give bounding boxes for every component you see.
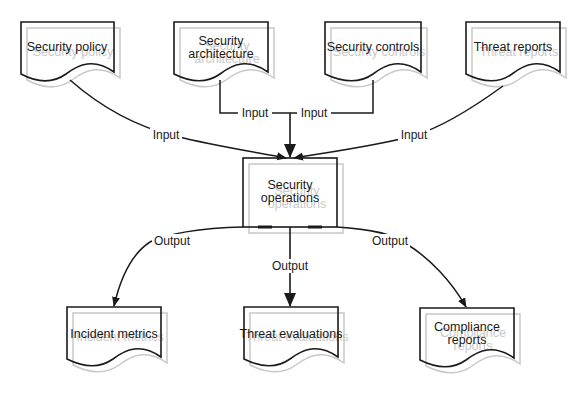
node-label: Security [267, 178, 313, 192]
node-label: Compliance [434, 320, 500, 334]
node-label: Security controls [327, 40, 419, 54]
edge-label: Output [372, 234, 409, 248]
node-threat-reports[interactable]: Threat reports Threat reports [466, 22, 566, 87]
node-label: Threat reports [474, 40, 553, 54]
edge-threat-reports-input[interactable]: Input [294, 86, 503, 158]
node-label: operations [261, 191, 319, 205]
node-incident-metrics[interactable]: Incident metrics Incident metrics [67, 307, 167, 372]
node-label: Threat evaluations [240, 327, 343, 341]
edge-label: Output [154, 234, 191, 248]
edge-label: Input [401, 128, 428, 142]
node-threat-evaluations[interactable]: Threat evaluations Threat evaluations [240, 307, 349, 372]
node-security-operations[interactable]: Security operations Security operations [243, 158, 343, 233]
node-label: reports [448, 333, 487, 347]
edge-security-architecture-input[interactable]: Input [220, 80, 290, 120]
node-label: architecture [188, 47, 253, 61]
edge-label: Input [153, 128, 180, 142]
node-label: Security policy [27, 40, 108, 54]
diagram-canvas: Security policy Security policy Security… [0, 0, 581, 394]
connector-line [294, 86, 503, 158]
node-security-policy[interactable]: Security policy Security policy [21, 22, 120, 87]
node-label: Incident metrics [70, 327, 158, 341]
node-security-controls[interactable]: Security controls Security controls [325, 22, 427, 87]
edge-compliance-reports-output[interactable]: Output [337, 227, 466, 307]
node-security-architecture[interactable]: Security architecture Security architect… [174, 22, 274, 87]
edge-label: Output [272, 259, 309, 273]
edge-label: Input [242, 106, 269, 120]
node-compliance-reports[interactable]: Compliance reports Compliance reports [420, 308, 520, 373]
edge-incident-metrics-output[interactable]: Output [114, 227, 243, 306]
edge-label: Input [301, 106, 328, 120]
edge-threat-evaluations-output[interactable]: Output [270, 227, 310, 306]
node-label: Security [198, 34, 244, 48]
